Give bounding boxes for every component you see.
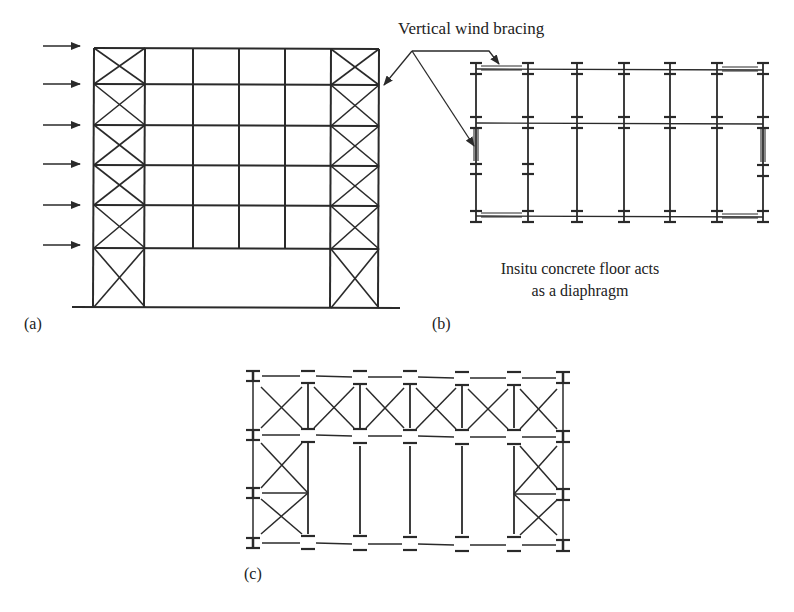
diaphragm-caption: Insitu concrete floor acts as a diaphrag… xyxy=(470,258,690,302)
panel-label-c: (c) xyxy=(244,565,262,583)
elevation-frame xyxy=(72,48,400,308)
panel-label-a: (a) xyxy=(24,315,42,333)
diaphragm-caption-line1: Insitu concrete floor acts xyxy=(470,258,690,280)
elevation-bracing xyxy=(94,48,379,308)
bracing-callout-leaders xyxy=(384,51,499,146)
wind-load-arrows xyxy=(43,46,80,245)
bracing-callout-label: Vertical wind bracing xyxy=(398,19,544,39)
structural-diagram xyxy=(0,0,794,612)
plan-c xyxy=(246,371,570,551)
panel-label-b: (b) xyxy=(432,315,451,333)
plan-b xyxy=(470,63,769,222)
diaphragm-caption-line2: as a diaphragm xyxy=(470,280,690,302)
